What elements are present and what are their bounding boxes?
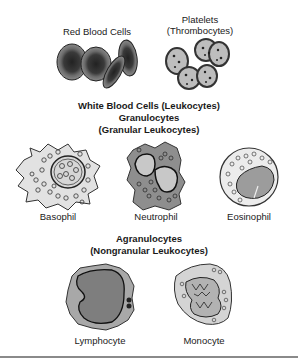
granulocytes-subtitle: (Granular Leukocytes) <box>0 124 298 136</box>
agranulocytes-title: Agranulocytes <box>0 233 298 245</box>
eosinophil-label: Eosinophil <box>218 211 280 222</box>
red-blood-cells-illustration <box>56 38 138 93</box>
basophil-label: Basophil <box>28 211 88 222</box>
bottom-divider <box>0 356 298 358</box>
monocyte-label: Monocyte <box>174 335 234 346</box>
eosinophil-illustration <box>218 146 280 208</box>
lymphocyte-illustration <box>62 262 136 332</box>
wbc-title: White Blood Cells (Leukocytes) <box>0 100 298 112</box>
platelets-label: Platelets (Thrombocytes) <box>160 14 240 36</box>
monocyte-illustration <box>170 262 236 328</box>
neutrophil-label: Neutrophil <box>126 211 186 222</box>
granulocytes-title: Granulocytes <box>0 112 298 124</box>
platelets-illustration <box>164 38 236 90</box>
neutrophil-illustration <box>125 140 187 212</box>
platelets-label-line1: Platelets <box>160 14 240 25</box>
agranulocytes-subtitle: (Nongranular Leukocytes) <box>0 245 298 257</box>
platelets-label-line2: (Thrombocytes) <box>160 25 240 36</box>
lymphocyte-label: Lymphocyte <box>70 335 130 346</box>
red-blood-cells-label: Red Blood Cells <box>60 26 134 37</box>
basophil-illustration <box>14 140 102 212</box>
